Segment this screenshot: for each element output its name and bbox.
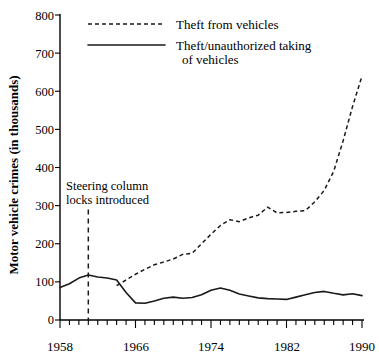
series-line-theft-from-vehicles xyxy=(117,76,362,286)
y-tick-label-200: 200 xyxy=(35,237,54,251)
y-tick-label-500: 500 xyxy=(35,123,54,137)
y-tick-label-100: 100 xyxy=(35,275,54,289)
y-tick-label-0: 0 xyxy=(48,313,54,327)
y-axis-title: Motor vehicle crimes (in thousands) xyxy=(6,75,21,274)
y-tick-label-800: 800 xyxy=(35,9,54,23)
chart-container: Motor vehicle crimes (in thousands) 0 10… xyxy=(0,0,379,359)
legend-label-theft-unauthorized-taking-line2: of vehicles xyxy=(182,52,239,67)
y-tick-label-700: 700 xyxy=(35,47,54,61)
y-axis-tick-labels: 0 100 200 300 400 500 600 700 800 xyxy=(35,9,54,327)
series-line-theft-unauthorized-taking xyxy=(60,275,362,303)
annotation-steering-column-line1: Steering column xyxy=(66,179,149,193)
x-tick-label-1966: 1966 xyxy=(123,339,150,354)
legend-label-theft-unauthorized-taking: Theft/unauthorized taking xyxy=(176,38,312,53)
legend-label-theft-from-vehicles: Theft from vehicles xyxy=(176,17,279,32)
x-tick-label-1974: 1974 xyxy=(198,339,225,354)
x-axis-tick-labels: 1958 1966 1974 1982 1990 xyxy=(47,339,375,354)
legend: Theft from vehicles Theft/unauthorized t… xyxy=(88,17,312,67)
line-chart: Motor vehicle crimes (in thousands) 0 10… xyxy=(0,0,379,359)
annotation-steering-column-line2: locks introduced xyxy=(66,193,150,207)
y-tick-label-400: 400 xyxy=(35,161,54,175)
y-tick-label-600: 600 xyxy=(35,85,54,99)
x-tick-label-1958: 1958 xyxy=(47,339,73,354)
x-tick-label-1982: 1982 xyxy=(274,339,300,354)
y-tick-label-300: 300 xyxy=(35,199,54,213)
x-tick-label-1990: 1990 xyxy=(349,339,375,354)
